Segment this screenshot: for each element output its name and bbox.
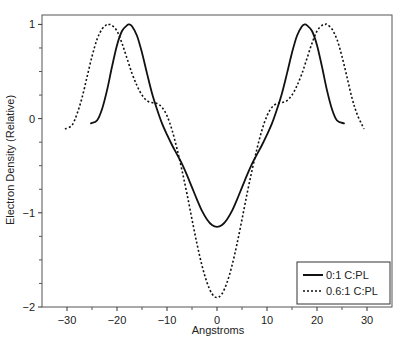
x-tick-label: −20 — [108, 314, 127, 326]
y-tick-label: 1 — [29, 18, 35, 30]
y-tick-label: −1 — [22, 207, 35, 219]
y-axis-title: Electron Density (Relative) — [4, 95, 16, 225]
legend: 0:1 C:PL 0.6:1 C:PL — [297, 262, 390, 304]
series-layer — [65, 24, 364, 298]
legend-label-1: 0.6:1 C:PL — [326, 285, 378, 297]
series-line-dotted — [65, 24, 364, 298]
chart: 10−1−2 −30−20−100102030 Angstroms Electr… — [0, 0, 405, 350]
x-axis-title: Angstroms — [192, 324, 245, 336]
legend-label-0: 0:1 C:PL — [326, 269, 369, 281]
x-tick-label: 10 — [261, 314, 273, 326]
y-tick-label: −2 — [22, 301, 35, 313]
x-tick-label: 30 — [361, 314, 373, 326]
x-tick-label: 20 — [311, 314, 323, 326]
x-tick-label: −30 — [58, 314, 77, 326]
y-axis: 10−1−2 — [22, 18, 42, 313]
x-tick-label: −10 — [158, 314, 177, 326]
y-tick-label: 0 — [29, 113, 35, 125]
series-line-solid — [91, 24, 344, 227]
